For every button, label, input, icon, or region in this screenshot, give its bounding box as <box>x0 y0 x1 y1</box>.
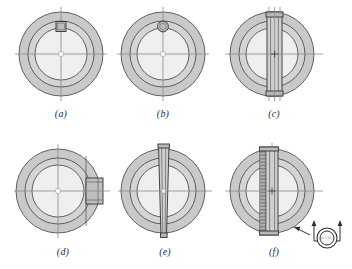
panel-b: (b) <box>115 4 211 128</box>
shaft-center-e <box>161 189 166 194</box>
section-view-indicator <box>288 214 352 260</box>
inset-ring <box>317 228 337 248</box>
view-arrow-right-icon <box>338 220 343 236</box>
panel-d-drawing <box>13 140 113 242</box>
square-key-a <box>56 22 66 32</box>
panel-e-drawing <box>115 140 215 242</box>
panel-d-label: (d) <box>13 246 113 257</box>
panel-b-drawing <box>115 4 211 104</box>
panel-a-label: (a) <box>13 108 109 119</box>
boss-bottom-e <box>161 233 168 238</box>
panel-c: (c) <box>222 4 326 128</box>
round-key-b <box>158 21 169 32</box>
boss-top-e <box>158 144 170 148</box>
shaft-center-d <box>55 188 60 193</box>
panel-e-label: (e) <box>115 246 215 257</box>
panel-c-label: (c) <box>222 108 326 119</box>
panel-a: (a) <box>13 4 109 128</box>
section-view-indicator-drawing <box>288 214 352 260</box>
boss-top-f <box>259 147 278 151</box>
view-arrow-left-icon <box>312 220 317 236</box>
figure-root: (a) (b) <box>0 0 352 269</box>
pointer-arrow-icon <box>294 227 310 235</box>
boss-bottom-f <box>259 231 278 235</box>
shaft-center-a <box>58 51 63 56</box>
panel-b-label: (b) <box>115 108 211 119</box>
shaft-center-b <box>160 51 165 56</box>
panel-e: (e) <box>115 140 215 266</box>
panel-d: (d) <box>13 140 113 266</box>
panel-c-drawing <box>222 4 326 104</box>
panel-a-drawing <box>13 4 109 104</box>
